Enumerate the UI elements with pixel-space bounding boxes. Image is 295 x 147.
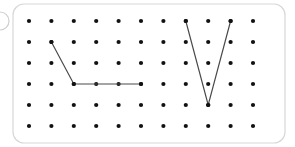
peg-dot[interactable] [27, 19, 31, 23]
peg-dot[interactable] [229, 82, 233, 86]
vertex-dot[interactable] [49, 40, 53, 44]
peg-dot[interactable] [72, 40, 76, 44]
peg-dot[interactable] [184, 40, 188, 44]
peg-dot[interactable] [49, 82, 53, 86]
peg-dot[interactable] [139, 19, 143, 23]
peg-dot[interactable] [206, 19, 210, 23]
peg-dot[interactable] [72, 103, 76, 107]
peg-dot[interactable] [117, 124, 121, 128]
peg-dot[interactable] [27, 40, 31, 44]
geoboard-figure: Geoboard with two line figures [0, 0, 295, 147]
vertex-dot[interactable] [139, 82, 143, 86]
page-edge-arc [0, 12, 9, 30]
peg-dot[interactable] [161, 19, 165, 23]
peg-dot[interactable] [251, 124, 255, 128]
peg-dot[interactable] [251, 82, 255, 86]
geoboard-canvas [0, 0, 295, 147]
peg-dot[interactable] [229, 124, 233, 128]
geoboard-panel [13, 4, 285, 143]
peg-dot[interactable] [94, 40, 98, 44]
peg-dot[interactable] [184, 61, 188, 65]
peg-dot[interactable] [117, 40, 121, 44]
peg-dot[interactable] [206, 82, 210, 86]
peg-dot[interactable] [161, 124, 165, 128]
vertex-dot[interactable] [72, 82, 76, 86]
peg-dot[interactable] [161, 40, 165, 44]
peg-dot[interactable] [251, 61, 255, 65]
peg-dot[interactable] [139, 124, 143, 128]
peg-dot[interactable] [229, 61, 233, 65]
peg-dot[interactable] [206, 124, 210, 128]
peg-dot[interactable] [117, 103, 121, 107]
peg-dot[interactable] [184, 103, 188, 107]
peg-dot[interactable] [49, 124, 53, 128]
panel-group [13, 4, 285, 143]
peg-dot[interactable] [27, 61, 31, 65]
page-edge-arc-group [0, 12, 9, 30]
peg-dot[interactable] [139, 61, 143, 65]
peg-dot[interactable] [161, 103, 165, 107]
peg-dot[interactable] [94, 124, 98, 128]
peg-dot[interactable] [206, 40, 210, 44]
peg-dot[interactable] [206, 61, 210, 65]
peg-dot[interactable] [27, 124, 31, 128]
peg-dot[interactable] [49, 19, 53, 23]
peg-dot[interactable] [94, 103, 98, 107]
vertex-dot[interactable] [184, 19, 188, 23]
peg-dot[interactable] [72, 124, 76, 128]
peg-dot[interactable] [229, 40, 233, 44]
peg-dot[interactable] [161, 61, 165, 65]
peg-dot[interactable] [139, 103, 143, 107]
peg-dot[interactable] [161, 82, 165, 86]
peg-dot[interactable] [251, 103, 255, 107]
peg-dot[interactable] [94, 19, 98, 23]
peg-dot[interactable] [27, 82, 31, 86]
peg-dot[interactable] [184, 82, 188, 86]
vertex-dot[interactable] [229, 19, 233, 23]
peg-dot[interactable] [229, 103, 233, 107]
peg-dot[interactable] [139, 40, 143, 44]
peg-dot[interactable] [27, 103, 31, 107]
peg-dot[interactable] [117, 19, 121, 23]
vertex-dot[interactable] [206, 103, 210, 107]
peg-dot[interactable] [251, 19, 255, 23]
peg-dot[interactable] [117, 61, 121, 65]
peg-dot[interactable] [72, 19, 76, 23]
peg-dot[interactable] [184, 124, 188, 128]
peg-dot[interactable] [94, 61, 98, 65]
peg-dot[interactable] [49, 103, 53, 107]
peg-dot[interactable] [72, 61, 76, 65]
peg-dot[interactable] [251, 40, 255, 44]
peg-dot[interactable] [49, 61, 53, 65]
